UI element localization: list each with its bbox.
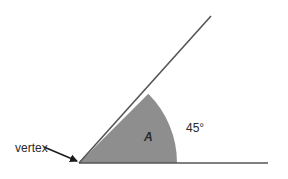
angle-measure-label: 45° (186, 121, 204, 135)
angle-name-label: A (143, 130, 153, 144)
vertex-arrow-icon (44, 147, 77, 161)
angle-sector (79, 94, 177, 163)
vertex-label: vertex (15, 141, 48, 155)
angle-diagram: vertex A 45° (0, 0, 288, 179)
